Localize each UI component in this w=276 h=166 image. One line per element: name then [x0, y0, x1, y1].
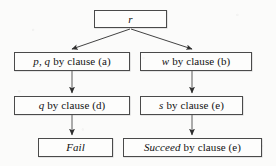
edge-root-to-pq: [72, 29, 130, 49]
node-pq-clause-a-goal: p, q: [33, 56, 50, 67]
node-w-clause-b: w by clause (b): [140, 52, 252, 71]
node-succeed-clause-e: Succeed by clause (e): [123, 138, 262, 157]
node-root: r: [94, 10, 167, 28]
node-w-clause-b-rest: by clause (b): [172, 56, 230, 67]
node-succeed-clause-e-goal: Succeed: [144, 142, 181, 153]
node-fail: Fail: [38, 138, 113, 157]
node-root-label: r: [128, 14, 132, 25]
node-s-clause-e: s by clause (e): [140, 96, 243, 115]
node-s-clause-e-goal: s: [159, 100, 163, 111]
node-pq-clause-a: p, q by clause (a): [14, 52, 130, 71]
diagram-canvas: r p, q by clause (a) w by clause (b) q b…: [0, 0, 276, 166]
node-q-clause-d: q by clause (d): [14, 96, 130, 115]
edge-root-to-w: [131, 29, 192, 49]
node-pq-clause-a-rest: by clause (a): [53, 56, 111, 67]
node-fail-label: Fail: [66, 142, 85, 153]
node-w-clause-b-goal: w: [162, 56, 169, 67]
node-s-clause-e-rest: by clause (e): [166, 100, 224, 111]
node-q-clause-d-goal: q: [39, 100, 45, 111]
node-succeed-clause-e-rest: by clause (e): [184, 142, 242, 153]
node-q-clause-d-rest: by clause (d): [47, 100, 105, 111]
